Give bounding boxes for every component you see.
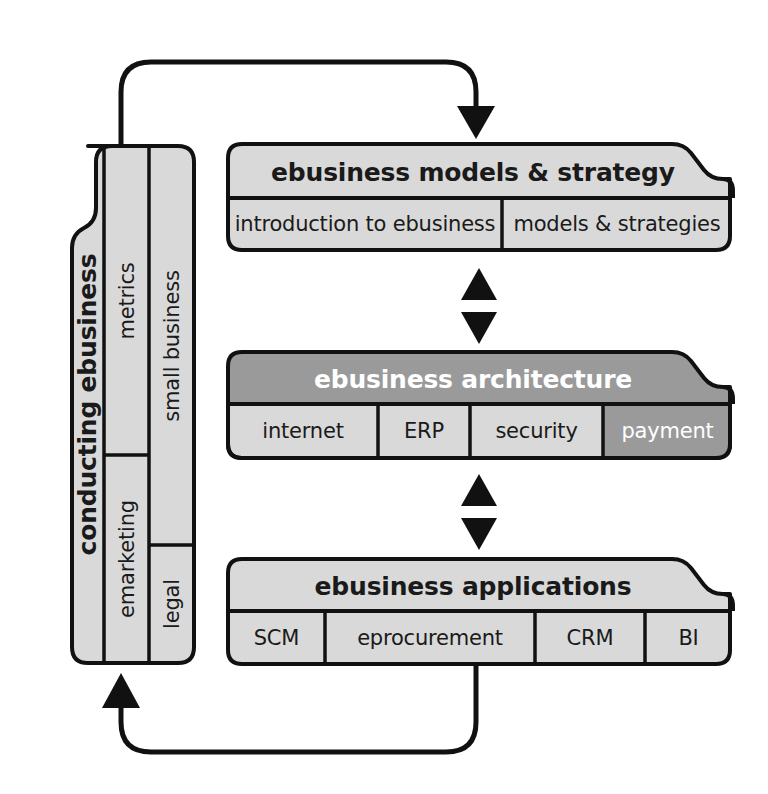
diagram-canvas: conducting ebusiness metrics emarketing …: [0, 0, 768, 794]
stack-ebusiness-architecture: [228, 352, 733, 458]
stack-0-body-shape: [228, 198, 730, 250]
feedback-arrow-bottom-path: [121, 664, 476, 752]
arrow-down-upper: [461, 312, 497, 344]
spine-panel-outline: [72, 146, 194, 663]
stack-1-cell-3-highlight: [603, 404, 730, 458]
feedback-arrow-top-path: [121, 62, 476, 146]
feedback-arrow-top: [121, 62, 495, 146]
stack-ebusiness-applications: [228, 559, 733, 664]
stack-1-header-shape: [228, 352, 730, 404]
stack-2-header-shape: [228, 559, 730, 611]
stack-ebusiness-models-strategy: [228, 144, 733, 250]
bidirectional-arrows-upper: [461, 268, 497, 344]
feedback-arrow-top-head: [457, 106, 495, 139]
feedback-arrow-bottom-head: [102, 673, 140, 708]
arrow-up-upper: [461, 268, 497, 300]
bidirectional-arrows-lower: [461, 474, 497, 550]
stack-2-body-shape: [228, 611, 730, 664]
arrow-down-lower: [461, 518, 497, 550]
diagram-shapes: [0, 0, 768, 794]
feedback-arrow-bottom: [102, 664, 476, 752]
stack-0-header-shape: [228, 144, 730, 198]
spine-panel: [72, 146, 194, 663]
arrow-up-lower: [461, 474, 497, 506]
